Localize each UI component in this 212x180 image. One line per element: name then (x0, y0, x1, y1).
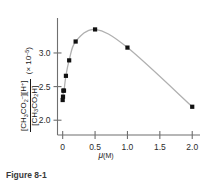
data-curve-path (63, 29, 193, 106)
figure-caption: Figure 8-1 (6, 170, 126, 180)
x-tick-group: 00.51.01.52.0 (60, 131, 198, 152)
data-point-marker (190, 105, 194, 109)
data-point-marker (62, 89, 66, 93)
data-point-marker (61, 95, 65, 99)
y-axis-label-denominator: [CH3CO2H] (31, 79, 40, 132)
y-axis-label: [CH3CO2–][H+] [CH3CO2H] (× 10–5) (2, 0, 56, 140)
x-axis-label: μ(M) (0, 150, 212, 160)
y-axis-multiplier: (× 10–5) (25, 47, 34, 77)
data-point-marker (74, 39, 78, 43)
data-point-marker (93, 27, 97, 31)
data-point-marker (125, 45, 129, 49)
figure-container: 2.02.53.0 00.51.01.52.0 [CH3CO2–][H+] [C… (0, 0, 212, 180)
data-point-marker (67, 58, 71, 62)
chart-axes (58, 18, 201, 135)
data-series-line (63, 29, 193, 106)
data-point-marker (64, 74, 68, 78)
y-axis-label-fraction: [CH3CO2–][H+] [CH3CO2H] (20, 79, 40, 132)
x-axis-label-unit: (M) (103, 152, 114, 159)
data-series-markers (61, 27, 195, 109)
